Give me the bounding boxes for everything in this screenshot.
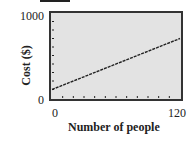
cost-line <box>52 39 180 90</box>
y-tick-max: 1000 <box>20 9 44 24</box>
x-tick-max: 120 <box>168 106 186 121</box>
x-axis-label: Number of people <box>68 120 160 135</box>
x-tick-min: 0 <box>52 106 58 121</box>
y-tick-min: 0 <box>38 93 44 108</box>
y-axis-label: Cost ($) <box>19 45 34 85</box>
axis-ticks <box>52 22 169 99</box>
